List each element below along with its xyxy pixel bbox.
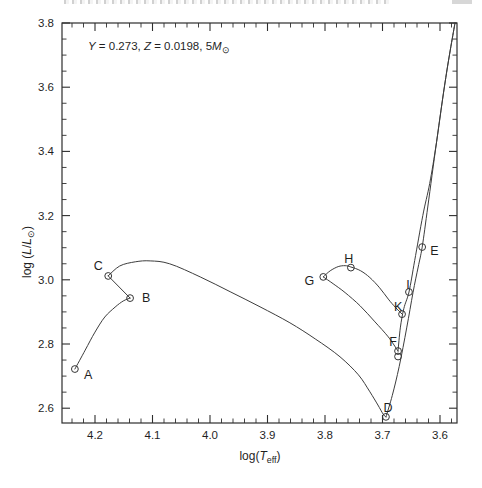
x-tick-label: 4.2 [87,429,103,441]
y-tick-label: 3.8 [38,17,54,29]
y-tick-label: 2.8 [38,338,54,350]
track-segment-C-D [108,261,386,417]
y-tick-label: 3.4 [38,145,55,157]
track-segment-F-I-top [398,23,455,351]
model-annotation: Y = 0.273, Z = 0.0198, 5M⊙ [88,40,230,55]
page-header-remnant [64,0,390,4]
point-label-F: F [389,335,397,349]
x-tick-label: 3.7 [375,429,391,441]
scanned-book-page: 4.24.14.03.93.83.73.63.83.63.43.23.02.82… [0,0,482,488]
y-tick-label: 3.2 [38,210,54,222]
point-label-G: G [305,274,315,288]
track-segment-F-G [323,277,398,351]
plot-frame [62,23,457,423]
y-axis-title: log (L/L⊙) [20,226,36,278]
point-label-D: D [383,401,392,415]
page-number-remnant [452,0,472,4]
point-label-A: A [84,368,93,382]
point-label-C: C [94,259,103,273]
x-tick-label: 3.8 [317,429,333,441]
point-label-E: E [430,244,438,258]
point-label-H: H [344,252,353,266]
point-label-I: I [406,278,409,292]
y-tick-label: 2.6 [38,402,54,414]
y-tick-label: 3.6 [38,81,54,93]
x-tick-label: 4.1 [145,429,161,441]
hr-diagram-figure: 4.24.14.03.93.83.73.63.83.63.43.23.02.82… [0,0,482,488]
point-label-K: K [394,300,403,314]
track-segment-G-H-K [323,266,402,314]
point-label-B: B [142,291,150,305]
track-segment-A-B [75,298,130,369]
y-tick-label: 3.0 [38,274,54,286]
x-tick-label: 4.0 [202,429,218,441]
x-tick-label: 3.9 [260,429,276,441]
track-segment-B-C [108,276,130,298]
x-axis-title: log(Teff) [239,449,280,465]
x-tick-label: 3.6 [432,429,448,441]
